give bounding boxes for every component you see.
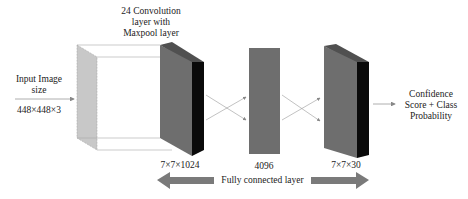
input-label: Input Image size xyxy=(4,74,74,96)
output-label: Confidence Score + Class Probability xyxy=(396,89,466,122)
conv-output-block xyxy=(160,42,204,156)
output-label-line2: Score + Class xyxy=(396,100,466,111)
fc-connections-2 xyxy=(282,95,320,121)
output-label-line3: Probability xyxy=(396,111,466,122)
conv-dims: 7×7×1024 xyxy=(150,160,210,171)
input-label-line2: size xyxy=(4,85,74,96)
fc-4096-dims: 4096 xyxy=(239,161,289,172)
conv-label-line3: Maxpool layer xyxy=(96,28,206,39)
output-label-line1: Confidence xyxy=(396,89,466,100)
input-image-plane xyxy=(77,45,97,150)
input-dims: 448×448×3 xyxy=(4,105,74,116)
fc-connections-1 xyxy=(206,95,246,120)
fc-4096-block xyxy=(249,48,280,154)
output-block xyxy=(324,44,369,158)
conv-label-line1: 24 Convolution xyxy=(96,6,206,17)
conv-layer-label: 24 Convolution layer with Maxpool layer xyxy=(96,6,206,39)
input-label-line1: Input Image xyxy=(4,74,74,85)
conv-label-line2: layer with xyxy=(96,17,206,28)
output-dims: 7×7×30 xyxy=(318,160,374,171)
fc-layer-label: Fully connected layer xyxy=(214,175,311,186)
